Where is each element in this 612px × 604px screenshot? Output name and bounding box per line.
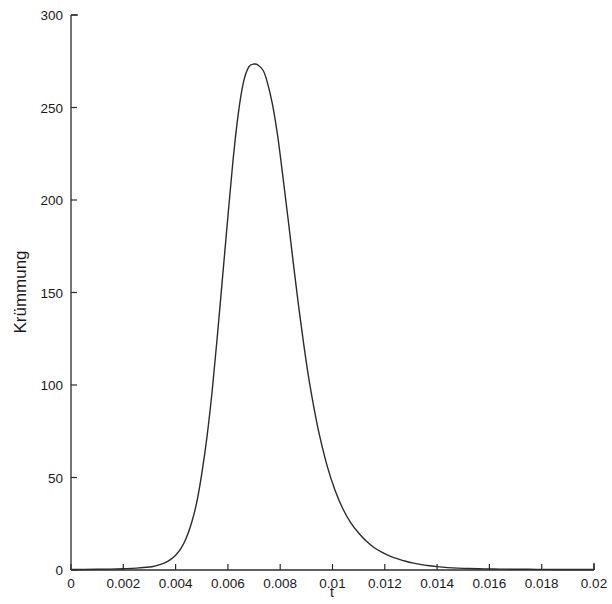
y-tick-label: 150 [40, 286, 63, 301]
chart-figure: 00.0020.0040.0060.0080.010.0120.0140.016… [0, 0, 612, 604]
x-tick-label: 0.002 [106, 576, 140, 591]
y-tick-label: 100 [40, 378, 63, 393]
x-tick-label: 0.008 [263, 576, 297, 591]
chart-plot-area: 00.0020.0040.0060.0080.010.0120.0140.016… [0, 0, 612, 604]
figure-background [0, 0, 612, 604]
x-axis-label: t [330, 584, 334, 600]
x-tick-label: 0 [67, 576, 75, 591]
y-axis-label: Krümmung [11, 250, 30, 333]
y-tick-label: 200 [40, 193, 63, 208]
y-tick-label: 0 [55, 563, 63, 578]
x-tick-label: 0.016 [473, 576, 507, 591]
y-tick-label: 250 [40, 101, 63, 116]
x-tick-label: 0.02 [581, 576, 607, 591]
y-tick-label: 50 [48, 471, 63, 486]
x-tick-label: 0.006 [211, 576, 245, 591]
x-tick-label: 0.018 [525, 576, 559, 591]
x-tick-label: 0.014 [420, 576, 454, 591]
y-tick-label: 300 [40, 8, 63, 23]
x-tick-label: 0.004 [159, 576, 193, 591]
x-tick-label: 0.012 [368, 576, 402, 591]
